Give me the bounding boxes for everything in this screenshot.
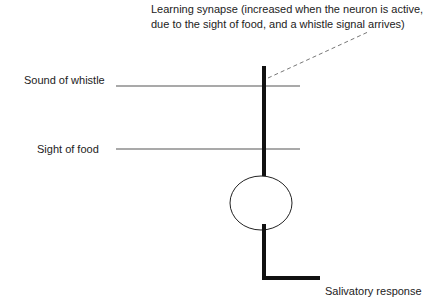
neuron-diagram	[0, 0, 442, 306]
neuron-cell-body	[230, 176, 292, 230]
axon-line	[264, 224, 320, 278]
synapse-pointer-line	[268, 32, 368, 78]
